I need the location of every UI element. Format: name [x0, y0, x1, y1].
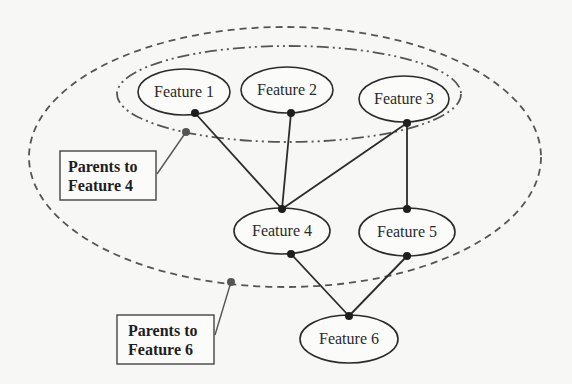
- dot-f1-bottom: [191, 109, 199, 117]
- callout-line-1: Parents to: [68, 158, 137, 175]
- dot-f3-bottom: [403, 119, 411, 127]
- dot-f5-top: [403, 205, 411, 213]
- node-label: Feature 1: [154, 83, 214, 100]
- callout-anchor-dot: [182, 128, 190, 136]
- edge-f1-f4: [195, 113, 282, 209]
- node-feature-2: Feature 2: [241, 67, 333, 113]
- dot-f5-bottom: [403, 252, 411, 260]
- bayesian-network-diagram: Feature 1 Feature 2 Feature 3 Feature 4 …: [0, 0, 572, 384]
- edge-f2-f4: [282, 113, 291, 209]
- edge-f5-f6: [349, 256, 407, 316]
- callout-line-1: Parents to: [128, 322, 197, 339]
- node-label: Feature 4: [252, 222, 312, 239]
- callout-line-2: Feature 6: [128, 341, 193, 358]
- node-label: Feature 2: [257, 81, 317, 98]
- dot-f4-top: [278, 205, 286, 213]
- dot-f4-bottom: [287, 250, 295, 258]
- node-label: Feature 6: [319, 330, 379, 347]
- dot-f6-top: [345, 312, 353, 320]
- edge-f3-f4: [282, 123, 407, 209]
- node-feature-4: Feature 4: [234, 208, 330, 254]
- callout-parents-feature-4: Parents to Feature 4: [60, 128, 190, 200]
- callout-leader-line: [215, 282, 231, 335]
- node-feature-5: Feature 5: [359, 208, 455, 256]
- node-feature-6: Feature 6: [300, 315, 398, 363]
- node-feature-1: Feature 1: [138, 69, 230, 115]
- dot-f2-bottom: [287, 109, 295, 117]
- callout-anchor-dot: [227, 278, 235, 286]
- callout-line-2: Feature 4: [68, 177, 133, 194]
- edge-f4-f6: [291, 254, 349, 316]
- node-feature-3: Feature 3: [359, 76, 449, 122]
- node-label: Feature 3: [374, 90, 434, 107]
- callout-parents-feature-6: Parents to Feature 6: [117, 278, 235, 364]
- callout-leader-line: [157, 132, 186, 174]
- node-label: Feature 5: [377, 223, 437, 240]
